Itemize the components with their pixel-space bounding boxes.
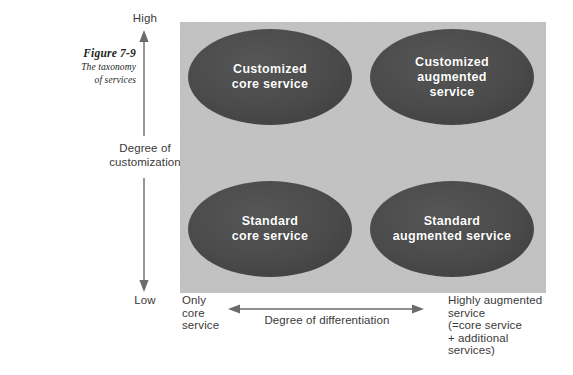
figure-caption-line-2: of services (18, 75, 136, 87)
figure-caption-title: Figure 7-9 (18, 46, 136, 61)
quadrant-ellipse-standard-core-service (188, 181, 352, 277)
horizontal-axis-left-label-line-2: core (182, 307, 242, 320)
vertical-axis-bottom-label: Low (100, 294, 190, 306)
horizontal-axis-right-label-line-3: (=core service (448, 319, 568, 332)
horizontal-axis-right-label: Highly augmented service (=core service … (448, 294, 568, 357)
horizontal-axis-left-label-line-3: service (182, 319, 242, 332)
axis-arrowhead-down (139, 280, 148, 292)
horizontal-axis-right-label-line-2: service (448, 307, 568, 320)
horizontal-axis-right-label-line-5: services) (448, 344, 568, 357)
horizontal-axis-right-label-line-4: + additional (448, 332, 568, 345)
quadrant-ellipse-standard-augmented-service (370, 181, 534, 277)
axis-arrowhead-right (412, 305, 424, 314)
figure-caption-line-1: The taxonomy (18, 62, 136, 74)
horizontal-axis-left-label: Only core service (182, 294, 242, 332)
figure-taxonomy-of-services: Figure 7-9 The taxonomy of services High… (0, 0, 573, 375)
matrix-panel: Customized core service Customized augme… (180, 22, 546, 293)
quadrant-ellipse-customized-core-service (188, 29, 352, 125)
quadrant-ellipse-customized-augmented-service (370, 29, 534, 125)
vertical-axis-top-label: High (100, 12, 190, 24)
figure-caption: Figure 7-9 The taxonomy of services (18, 46, 136, 86)
horizontal-axis-title: Degree of differentiation (232, 314, 422, 326)
horizontal-axis-right-label-line-1: Highly augmented (448, 294, 568, 307)
horizontal-axis-left-label-line-1: Only (182, 294, 242, 307)
